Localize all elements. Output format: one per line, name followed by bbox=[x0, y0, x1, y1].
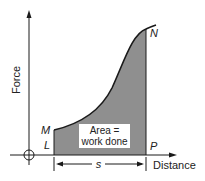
x-axis-label: Distance bbox=[153, 159, 196, 171]
y-axis-label: Force bbox=[10, 66, 22, 94]
point-L-label: L bbox=[44, 139, 50, 151]
area-label-line1: Area = bbox=[90, 125, 120, 136]
point-P-label: P bbox=[150, 140, 158, 152]
displacement-label: s bbox=[96, 158, 102, 170]
x-axis-arrow-icon bbox=[169, 153, 177, 158]
y-axis-arrow-icon bbox=[27, 10, 32, 18]
force-distance-diagram: s Area = work done M L N P Force Distanc… bbox=[0, 0, 205, 181]
s-arrow-right-icon bbox=[137, 162, 144, 167]
s-arrow-left-icon bbox=[56, 162, 63, 167]
area-label-line2: work done bbox=[80, 136, 128, 147]
point-M-label: M bbox=[41, 124, 51, 136]
point-N-label: N bbox=[150, 27, 158, 39]
